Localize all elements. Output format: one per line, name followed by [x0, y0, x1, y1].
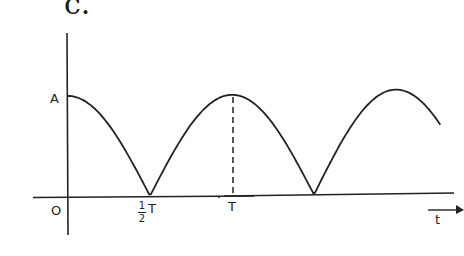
y-axis: [67, 33, 68, 235]
axis-dot: [218, 196, 220, 198]
half-fraction-numerator: 1: [137, 201, 147, 211]
waveform-plot: [0, 0, 464, 256]
period-label: T: [228, 199, 236, 214]
time-axis-label: t: [435, 212, 440, 227]
waveform-figure: c. A O 1 2 T T t: [0, 0, 464, 256]
origin-label: O: [51, 203, 61, 218]
panel-label: c.: [64, 0, 90, 21]
half-period-T-label: T: [148, 201, 156, 216]
arrowhead-icon: [456, 205, 464, 214]
x-axis: [33, 196, 254, 198]
rectified-wave-curve: [68, 90, 440, 195]
amplitude-label: A: [50, 91, 59, 106]
x-axis-right: [224, 193, 454, 196]
half-fraction-denominator: 2: [137, 214, 147, 224]
